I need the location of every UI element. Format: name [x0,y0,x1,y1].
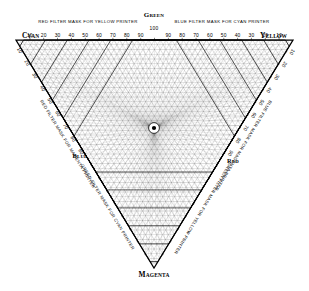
svg-text:70: 70 [110,33,116,38]
svg-text:60: 60 [96,33,102,38]
svg-text:90: 90 [165,33,171,38]
svg-text:90: 90 [227,149,234,157]
svg-text:GREEN FILTER MASK FOR YELLOW P: GREEN FILTER MASK FOR YELLOW PRINTER [173,162,233,255]
svg-text:MAGENTA: MAGENTA [138,270,169,279]
center-node [149,123,160,134]
svg-text:RED FILTER MASK FOR YELLOW PRI: RED FILTER MASK FOR YELLOW PRINTER [38,19,137,24]
ray-mesh [19,40,290,263]
svg-text:50: 50 [257,99,264,107]
svg-text:80: 80 [124,33,130,38]
svg-text:30: 30 [55,33,61,38]
svg-text:40: 40 [265,86,272,94]
svg-text:60: 60 [207,33,213,38]
tick-marks [22,38,287,256]
svg-text:80: 80 [179,33,185,38]
svg-text:20: 20 [281,61,288,69]
nomograph-figure: CYANYELLOWMAGENTAGREENBLUERED100RED FILT… [0,0,309,291]
triangle-nomograph-svg: CYANYELLOWMAGENTAGREENBLUERED100RED FILT… [0,0,309,291]
svg-text:50: 50 [46,97,53,105]
svg-text:30: 30 [249,33,255,38]
svg-text:80: 80 [234,137,241,145]
svg-text:10: 10 [16,47,23,55]
svg-text:20: 20 [41,33,47,38]
svg-text:70: 70 [242,124,249,132]
svg-text:60: 60 [250,111,257,119]
svg-text:100: 100 [150,26,159,31]
svg-text:30: 30 [31,72,38,80]
svg-text:20: 20 [262,33,268,38]
svg-text:40: 40 [68,33,74,38]
svg-text:70: 70 [193,33,199,38]
svg-text:90: 90 [138,33,144,38]
svg-text:40: 40 [235,33,241,38]
svg-text:10: 10 [276,33,282,38]
svg-text:BLUE FILTER MASK FOR CYAN PRIN: BLUE FILTER MASK FOR CYAN PRINTER [175,19,270,24]
svg-text:70: 70 [62,123,69,131]
svg-text:50: 50 [82,33,88,38]
svg-text:40: 40 [39,85,46,93]
svg-text:80: 80 [69,135,76,143]
svg-text:10: 10 [27,33,33,38]
svg-text:50: 50 [221,33,227,38]
svg-text:30: 30 [273,73,280,81]
svg-text:60: 60 [54,110,61,118]
svg-text:10: 10 [288,48,295,56]
svg-text:GREEN: GREEN [144,11,165,19]
svg-text:20: 20 [23,59,30,67]
